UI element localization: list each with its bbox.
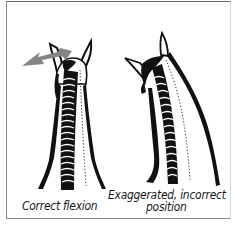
caption-exaggerated-line2: position [146,201,187,213]
horse-correct-flexion [38,41,106,190]
caption-correct-flexion: Correct flexion [22,200,97,212]
horse-exaggerated-position [125,33,220,186]
